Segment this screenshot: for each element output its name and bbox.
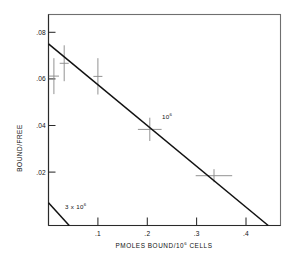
x-tick-label-03: .3 bbox=[194, 230, 200, 237]
y-axis-title: BOUND/FREE bbox=[16, 124, 23, 171]
fit-line-10e6 bbox=[49, 44, 269, 226]
annotation-3x10e6-superscript: 6 bbox=[84, 202, 87, 207]
x-axis-ticks bbox=[98, 218, 246, 226]
y-tick-label-04: .04 bbox=[36, 122, 46, 129]
scatchard-plot-figure: .08 .06 .04 .02 .1 .2 .3 .4 BOUND/FREE P… bbox=[0, 0, 295, 258]
annotation-3x10e6-base: 3 x 10 bbox=[65, 203, 84, 210]
y-tick-label-08: .08 bbox=[36, 29, 46, 36]
plot-frame bbox=[49, 15, 281, 226]
annotation-10e6: 106 bbox=[162, 112, 172, 120]
x-tick-label-01: .1 bbox=[95, 230, 101, 237]
annotation-3x10e6: 3 x 106 bbox=[65, 202, 87, 210]
annotation-10e6-superscript: 6 bbox=[169, 112, 172, 117]
y-tick-label-02: .02 bbox=[36, 169, 46, 176]
x-tick-label-02: .2 bbox=[144, 230, 150, 237]
x-axis-title-post: CELLS bbox=[187, 242, 212, 249]
x-axis-title: PMOLES BOUND/106 CELLS bbox=[116, 241, 213, 249]
x-axis-title-pre: PMOLES BOUND/10 bbox=[116, 242, 185, 249]
y-tick-label-06: .06 bbox=[36, 75, 46, 82]
x-tick-label-04: .4 bbox=[243, 230, 249, 237]
y-axis-ticks bbox=[49, 32, 56, 172]
error-bars-group bbox=[49, 45, 232, 182]
